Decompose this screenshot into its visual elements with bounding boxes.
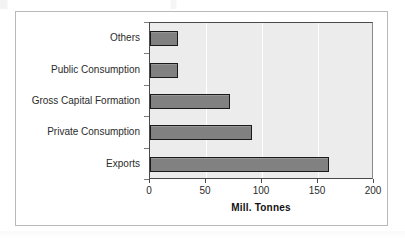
category-label-gross-capital-formation: Gross Capital Formation xyxy=(32,85,140,116)
bar-gross-capital-formation xyxy=(150,94,230,109)
bar-public-consumption xyxy=(150,63,178,78)
chart-frame: OthersPublic ConsumptionGross Capital Fo… xyxy=(15,11,388,226)
category-axis-tick xyxy=(144,148,149,149)
value-axis-tick-label-150: 150 xyxy=(309,185,326,196)
category-label-others: Others xyxy=(110,22,140,53)
bar-row xyxy=(150,23,374,54)
scan-artifact-bottom-edge xyxy=(0,231,405,238)
x-axis-title: Mill. Tonnes xyxy=(149,202,373,213)
value-axis-tick-50 xyxy=(205,179,206,183)
value-axis-tick-label-100: 100 xyxy=(253,185,270,196)
value-axis-tick-100 xyxy=(261,179,262,183)
bar-row xyxy=(150,117,374,148)
category-axis-tick xyxy=(144,53,149,54)
value-axis-tick-0 xyxy=(149,179,150,183)
plot-area xyxy=(149,22,373,179)
bar-row xyxy=(150,86,374,117)
value-axis-tick-label-50: 50 xyxy=(199,185,210,196)
value-axis-tick-150 xyxy=(317,179,318,183)
category-axis-tick xyxy=(144,85,149,86)
bar-exports xyxy=(150,157,329,172)
bars-group xyxy=(150,23,372,178)
category-axis-tick xyxy=(144,22,149,23)
value-axis-tick-200 xyxy=(373,179,374,183)
value-axis-tick-label-0: 0 xyxy=(146,185,152,196)
bar-private-consumption xyxy=(150,125,252,140)
category-label-private-consumption: Private Consumption xyxy=(47,116,140,147)
value-axis-tick-label-200: 200 xyxy=(365,185,382,196)
category-axis-labels: OthersPublic ConsumptionGross Capital Fo… xyxy=(16,22,146,179)
bar-row xyxy=(150,149,374,180)
category-label-public-consumption: Public Consumption xyxy=(51,53,140,84)
category-label-exports: Exports xyxy=(106,148,140,179)
bar-row xyxy=(150,54,374,85)
scan-artifact-top-edge xyxy=(0,0,405,9)
category-axis-tick xyxy=(144,116,149,117)
bar-others xyxy=(150,31,178,46)
